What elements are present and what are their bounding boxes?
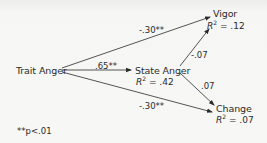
arrow-state-to-vigor xyxy=(180,29,209,66)
state-anger-r2: R2 = .42 xyxy=(136,77,174,88)
r2-value: = .12 xyxy=(217,21,245,31)
path-diagram: Trait Anger State Anger R2 = .42 Vigor R… xyxy=(0,0,267,143)
change-r2: R2 = .07 xyxy=(216,115,254,126)
r2-value: = .42 xyxy=(146,77,174,87)
significance-footnote: **p<.01 xyxy=(17,126,52,136)
node-trait-anger: Trait Anger xyxy=(16,65,67,76)
r2-value: = .07 xyxy=(226,115,254,125)
arrow-trait-to-vigor xyxy=(62,17,210,68)
coef-trait-change: -.30** xyxy=(139,101,164,111)
coef-trait-state: .65** xyxy=(95,61,117,71)
node-vigor: Vigor xyxy=(213,8,237,19)
coef-state-change: .07 xyxy=(201,81,215,91)
vigor-r2: R2 = .12 xyxy=(207,21,245,32)
coef-state-vigor: -.07 xyxy=(191,50,208,60)
coef-trait-vigor: -.30** xyxy=(139,25,164,35)
